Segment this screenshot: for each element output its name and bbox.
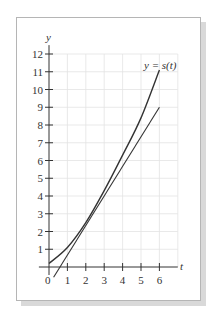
- y-tick-label: 1: [38, 243, 44, 255]
- y-tick-label: 7: [38, 137, 44, 149]
- y-tick-label: 6: [38, 155, 44, 167]
- x-tick-label: 4: [120, 274, 126, 286]
- y-tick-label: 9: [38, 101, 44, 113]
- figure: 123456789101112123456 y t 0 y = s(t): [0, 0, 214, 320]
- x-tick-label: 2: [83, 274, 89, 286]
- y-tick-label: 3: [38, 208, 44, 220]
- y-tick-label: 11: [32, 66, 43, 78]
- curve-label: y = s(t): [143, 59, 177, 72]
- y-axis-label: y: [45, 31, 51, 43]
- x-tick-label: 5: [138, 274, 144, 286]
- x-tick-label: 1: [65, 274, 71, 286]
- y-tick-label: 4: [38, 190, 44, 202]
- x-tick-label: 3: [101, 274, 107, 286]
- origin-label: 0: [45, 274, 51, 286]
- y-tick-label: 5: [38, 172, 44, 184]
- y-tick-label: 2: [38, 226, 44, 238]
- y-tick-label: 10: [32, 84, 44, 96]
- y-tick-label: 8: [38, 119, 44, 131]
- x-tick-label: 6: [157, 274, 163, 286]
- y-tick-label: 12: [32, 48, 43, 60]
